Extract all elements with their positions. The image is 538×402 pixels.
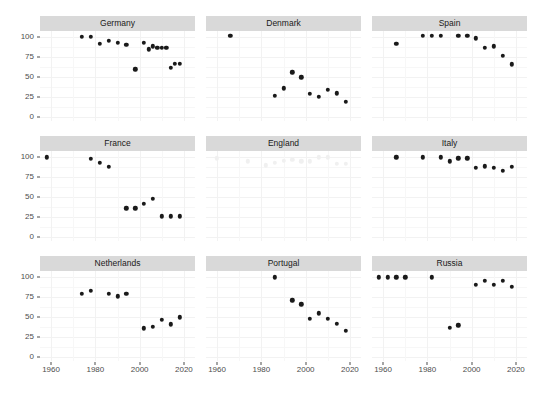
data-point bbox=[385, 275, 389, 279]
gridline-vertical bbox=[51, 271, 52, 361]
y-axis-tick-mark bbox=[37, 317, 40, 318]
data-point bbox=[492, 166, 496, 170]
plot-area-netherlands bbox=[40, 271, 195, 361]
gridline-vertical-minor bbox=[328, 31, 329, 121]
gridline-vertical bbox=[427, 151, 428, 241]
y-axis-tick-label: 100 bbox=[21, 273, 34, 281]
data-point bbox=[447, 325, 451, 329]
gridline-vertical bbox=[261, 271, 262, 361]
y-axis-tick-label: 0 bbox=[30, 353, 34, 361]
facet-strip-germany: Germany bbox=[40, 16, 195, 31]
facet-strip-label: Italy bbox=[442, 139, 458, 148]
data-point bbox=[465, 156, 469, 160]
y-axis-tick-mark bbox=[37, 177, 40, 178]
data-point bbox=[500, 169, 504, 173]
x-axis-tick-label: 1980 bbox=[252, 366, 270, 374]
data-point bbox=[246, 159, 250, 163]
y-axis-tick-label: 75 bbox=[25, 173, 34, 181]
y-axis-tick-label: 0 bbox=[30, 113, 34, 121]
gridline-vertical bbox=[472, 31, 473, 121]
plot-area-germany bbox=[40, 31, 195, 121]
data-point bbox=[483, 46, 487, 50]
gridline-vertical bbox=[184, 31, 185, 121]
y-axis-tick-label: 75 bbox=[25, 53, 34, 61]
data-point bbox=[89, 157, 93, 161]
data-point bbox=[474, 282, 478, 286]
gridline-vertical bbox=[350, 31, 351, 121]
data-point bbox=[142, 201, 146, 205]
data-point bbox=[492, 282, 496, 286]
gridline-vertical-minor bbox=[284, 271, 285, 361]
data-point bbox=[133, 67, 137, 71]
facet-strip-denmark: Denmark bbox=[206, 16, 361, 31]
facet-strip-label: Portugal bbox=[268, 259, 300, 268]
gridline-vertical bbox=[95, 151, 96, 241]
facet-strip-netherlands: Netherlands bbox=[40, 256, 195, 271]
data-point bbox=[124, 42, 128, 46]
data-point bbox=[299, 75, 303, 79]
gridline-vertical bbox=[383, 151, 384, 241]
data-point bbox=[326, 88, 330, 92]
y-axis-tick-mark bbox=[37, 357, 40, 358]
y-axis-tick-mark bbox=[37, 37, 40, 38]
gridline-vertical bbox=[217, 31, 218, 121]
data-point bbox=[326, 155, 330, 159]
y-axis-tick-label: 0 bbox=[30, 233, 34, 241]
data-point bbox=[142, 326, 146, 330]
data-point bbox=[272, 161, 276, 165]
data-point bbox=[142, 41, 146, 45]
facet-panel-spain: Spain bbox=[372, 16, 527, 121]
data-point bbox=[281, 158, 285, 162]
facet-panel-italy: Italy bbox=[372, 136, 527, 241]
data-point bbox=[177, 61, 181, 65]
y-axis-tick-mark bbox=[37, 297, 40, 298]
x-axis-tick-label: 1960 bbox=[208, 366, 226, 374]
gridline-vertical-minor bbox=[405, 271, 406, 361]
facet-strip-label: Russia bbox=[437, 259, 463, 268]
plot-area-france bbox=[40, 151, 195, 241]
x-axis-tick-label: 2000 bbox=[297, 366, 315, 374]
y-axis-tick-mark bbox=[37, 117, 40, 118]
facet-panel-england: England bbox=[206, 136, 361, 241]
data-point bbox=[106, 165, 110, 169]
gridline-vertical bbox=[306, 31, 307, 121]
gridline-vertical-minor bbox=[239, 151, 240, 241]
y-axis-tick-label: 25 bbox=[25, 93, 34, 101]
gridline-vertical bbox=[427, 271, 428, 361]
y-axis-tick-label: 100 bbox=[21, 33, 34, 41]
plot-area-england bbox=[206, 151, 361, 241]
gridline-vertical bbox=[383, 31, 384, 121]
data-point bbox=[394, 42, 398, 46]
data-point bbox=[290, 158, 294, 162]
data-point bbox=[89, 289, 93, 293]
data-point bbox=[317, 155, 321, 159]
data-point bbox=[438, 155, 442, 159]
gridline-vertical-minor bbox=[73, 271, 74, 361]
gridline-vertical bbox=[261, 31, 262, 121]
data-point bbox=[474, 36, 478, 40]
gridline-vertical-minor bbox=[405, 151, 406, 241]
facet-strip-label: France bbox=[104, 139, 130, 148]
gridline-vertical bbox=[306, 151, 307, 241]
facet-strip-label: Netherlands bbox=[95, 259, 141, 268]
x-axis-tick-label: 1960 bbox=[374, 366, 392, 374]
y-axis-tick-label: 25 bbox=[25, 213, 34, 221]
data-point bbox=[98, 161, 102, 165]
facet-grid: Germany0255075100DenmarkSpainFrance02550… bbox=[0, 0, 538, 402]
gridline-vertical-minor bbox=[118, 151, 119, 241]
gridline-vertical bbox=[516, 151, 517, 241]
facet-strip-italy: Italy bbox=[372, 136, 527, 151]
x-axis-tick-label: 2000 bbox=[131, 366, 149, 374]
data-point bbox=[151, 197, 155, 201]
data-point bbox=[124, 206, 128, 210]
y-axis-tick-mark bbox=[37, 197, 40, 198]
x-axis-tick-label: 2020 bbox=[175, 366, 193, 374]
data-point bbox=[343, 162, 347, 166]
facet-strip-france: France bbox=[40, 136, 195, 151]
y-axis-tick-mark bbox=[37, 157, 40, 158]
gridline-vertical-minor bbox=[284, 151, 285, 241]
data-point bbox=[394, 275, 398, 279]
gridline-vertical bbox=[140, 151, 141, 241]
gridline-vertical-minor bbox=[239, 271, 240, 361]
data-point bbox=[334, 91, 338, 95]
